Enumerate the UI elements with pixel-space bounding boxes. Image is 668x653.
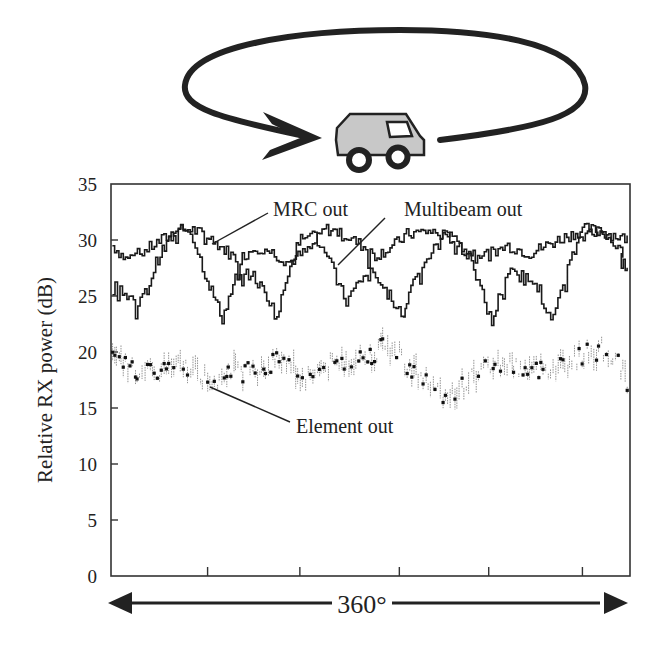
series-point	[301, 376, 304, 379]
series-point	[626, 389, 629, 392]
series-point	[595, 359, 598, 362]
y-tick-label: 10	[78, 454, 97, 475]
series-point	[586, 343, 589, 346]
series-point	[425, 373, 428, 376]
x-axis	[208, 567, 583, 576]
car-window	[387, 122, 412, 137]
series-point	[484, 359, 487, 362]
series-multibeam-out	[112, 225, 627, 326]
series-point	[227, 365, 230, 368]
series-point	[111, 351, 114, 354]
series-point	[186, 373, 189, 376]
series-point	[433, 388, 436, 391]
series-point	[537, 376, 540, 379]
series-point	[492, 367, 495, 370]
series-point	[251, 365, 254, 368]
series-point	[128, 364, 131, 367]
series-point	[395, 356, 398, 359]
series-point	[410, 375, 413, 378]
car-wheel-rear	[389, 148, 408, 167]
series-point	[441, 401, 444, 404]
series-point	[408, 363, 411, 366]
series-point	[296, 374, 299, 377]
annotation-label-element: Element out	[296, 415, 394, 437]
series-point	[343, 368, 346, 371]
annotation-element: Element out	[210, 387, 394, 437]
series-point	[225, 375, 228, 378]
series-point	[335, 359, 338, 362]
series-point	[311, 375, 314, 378]
annotation-label-mrc: MRC out	[273, 198, 348, 220]
series-point	[122, 366, 125, 369]
series-line	[112, 225, 627, 326]
series-point	[243, 364, 246, 367]
series-element-out	[111, 327, 629, 409]
series-point	[160, 369, 163, 372]
series-point	[246, 361, 249, 364]
series-point	[172, 366, 175, 369]
y-tick-label: 25	[78, 286, 97, 307]
series-point	[131, 360, 134, 363]
y-tick-label: 20	[78, 342, 97, 363]
series-point	[287, 358, 290, 361]
series-point	[524, 366, 527, 369]
y-tick-label: 30	[78, 230, 97, 251]
series-point	[499, 370, 502, 373]
series-point	[213, 380, 216, 383]
series-point	[406, 372, 409, 375]
series-point	[361, 356, 364, 359]
series-point	[617, 354, 620, 357]
annotation-mrc: MRC out	[212, 198, 348, 244]
series-point	[167, 362, 170, 365]
series-point	[357, 359, 360, 362]
series-point	[512, 371, 515, 374]
series-point	[282, 357, 285, 360]
series-point	[526, 373, 529, 376]
series-point	[271, 353, 274, 356]
series-point	[278, 360, 281, 363]
series-point	[165, 367, 168, 370]
series-point	[597, 344, 600, 347]
arrow-left-icon	[108, 592, 132, 614]
y-tick-label: 35	[78, 174, 97, 195]
arrow-right-icon	[604, 592, 628, 614]
series-point	[444, 394, 447, 397]
series-point	[421, 382, 424, 385]
series-point	[254, 371, 257, 374]
y-axis-title: Relative RX power (dB)	[33, 277, 57, 483]
series-point	[118, 355, 121, 358]
series-point	[605, 353, 608, 356]
series-point	[453, 398, 456, 401]
y-axis: 05101520253035	[78, 174, 118, 587]
series-point	[541, 368, 544, 371]
series-point	[322, 366, 325, 369]
series-point	[412, 365, 415, 368]
series-point	[493, 363, 496, 366]
series-point	[113, 354, 116, 357]
series-point	[373, 360, 376, 363]
series-point	[241, 380, 244, 383]
series-point	[156, 377, 159, 380]
series-point	[135, 377, 138, 380]
car-wheel-front	[349, 150, 369, 170]
series-point	[366, 360, 369, 363]
series-point	[577, 347, 580, 350]
series-point	[149, 363, 152, 366]
series-point	[153, 372, 156, 375]
series-point	[206, 381, 209, 384]
y-tick-label: 15	[78, 398, 97, 419]
series-point	[163, 362, 166, 365]
series-point	[182, 368, 185, 371]
series-point	[124, 356, 127, 359]
annotation-label-multibeam: Multibeam out	[404, 198, 523, 220]
series-point	[146, 363, 149, 366]
series-point	[275, 351, 278, 354]
series-point	[262, 368, 265, 371]
span-arrow: 360°	[108, 590, 628, 619]
series-point	[340, 357, 343, 360]
series-point	[264, 372, 267, 375]
series-layer	[111, 224, 629, 410]
series-point	[561, 358, 564, 361]
series-point	[350, 365, 353, 368]
series-point	[370, 362, 373, 365]
